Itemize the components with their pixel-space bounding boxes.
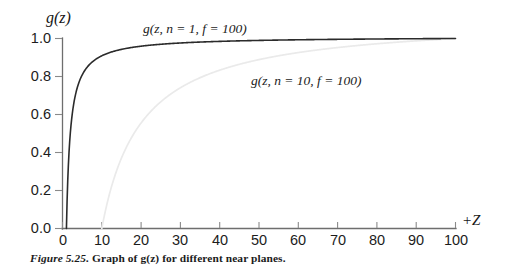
series-label-n10: g(z, n = 10, f = 100) xyxy=(251,73,362,88)
y-tick-label-0.6: 0.6 xyxy=(31,106,51,122)
x-tick-label-90: 90 xyxy=(408,232,424,248)
x-axis-label: +Z xyxy=(462,212,481,228)
x-tick-label-0: 0 xyxy=(59,232,67,248)
x-tick-label-40: 40 xyxy=(212,232,228,248)
x-tick-label-10: 10 xyxy=(94,232,110,248)
x-tick-label-30: 30 xyxy=(172,232,188,248)
figure-container: g(z) 1.0 0.8 0.6 0.4 0.2 0.0 xyxy=(0,0,506,278)
x-tick-marks xyxy=(63,222,456,228)
caption-figure-number: Figure 5.25. xyxy=(30,252,89,264)
curve-n10 xyxy=(102,39,456,229)
x-tick-label-60: 60 xyxy=(290,232,306,248)
caption-text-post: for different near planes. xyxy=(159,252,285,264)
x-tick-label-20: 20 xyxy=(133,232,149,248)
series-label-n1: g(z, n = 1, f = 100) xyxy=(143,21,247,36)
y-axis-label: g(z) xyxy=(46,9,71,27)
y-tick-label-0.2: 0.2 xyxy=(31,182,51,198)
curve-n1 xyxy=(66,39,455,229)
x-tick-label-70: 70 xyxy=(330,232,346,248)
figure-caption: Figure 5.25. Graph of g(z) for different… xyxy=(30,252,490,264)
caption-text-pre: Graph of xyxy=(89,252,140,264)
y-tick-label-0.0: 0.0 xyxy=(31,220,51,236)
chart-canvas: g(z) 1.0 0.8 0.6 0.4 0.2 0.0 xyxy=(0,0,506,278)
caption-math: g(z) xyxy=(140,252,159,264)
y-tick-label-1.0: 1.0 xyxy=(31,30,51,46)
y-tick-label-0.4: 0.4 xyxy=(31,144,51,160)
x-tick-label-50: 50 xyxy=(251,232,267,248)
x-tick-label-80: 80 xyxy=(369,232,385,248)
y-tick-marks xyxy=(55,39,62,229)
x-tick-label-100: 100 xyxy=(444,232,468,248)
y-tick-label-0.8: 0.8 xyxy=(31,68,51,84)
